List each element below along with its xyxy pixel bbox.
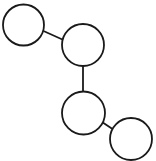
edge-node-1-node-2 bbox=[44, 31, 64, 40]
nodes bbox=[3, 5, 152, 161]
graph-diagram bbox=[0, 0, 156, 161]
node-4 bbox=[110, 118, 152, 160]
node-3 bbox=[62, 92, 105, 135]
node-1 bbox=[3, 5, 44, 46]
node-2 bbox=[62, 24, 104, 66]
edge-node-3-node-4 bbox=[102, 122, 113, 129]
